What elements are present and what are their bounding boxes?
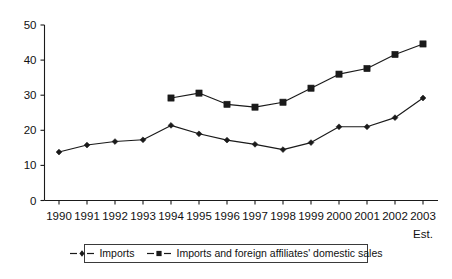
chart-axes xyxy=(41,25,439,205)
x-tick-label-1991: 1991 xyxy=(74,210,100,222)
y-tick-label-30: 30 xyxy=(24,89,37,101)
data-point-marker xyxy=(252,141,258,147)
data-point-marker xyxy=(196,90,202,96)
chart-series-group xyxy=(56,41,426,155)
legend-label-imports: Imports xyxy=(99,248,134,259)
data-point-marker xyxy=(392,51,398,57)
data-point-marker xyxy=(168,95,174,101)
data-point-marker xyxy=(308,140,314,146)
data-point-marker xyxy=(280,147,286,153)
x-tick-label-1997: 1997 xyxy=(242,210,268,222)
y-tick-label-40: 40 xyxy=(24,54,37,66)
data-point-marker xyxy=(364,124,370,130)
x-tick-label-2000: 2000 xyxy=(326,210,352,222)
line-chart-plot: 01020304050 1990199119921993199419951996… xyxy=(0,0,452,279)
data-point-marker xyxy=(308,85,314,91)
x-axis-tick-labels: 1990199119921993199419951996199719981999… xyxy=(46,210,436,222)
legend-item-imports[interactable]: Imports xyxy=(69,248,134,259)
x-tick-label-1993: 1993 xyxy=(130,210,156,222)
y-axis-ticks xyxy=(41,25,45,201)
data-point-marker xyxy=(224,137,230,143)
x-tick-label-1996: 1996 xyxy=(214,210,240,222)
data-point-marker xyxy=(280,99,286,105)
x-tick-label-1999: 1999 xyxy=(298,210,324,222)
legend-key-diamond-icon xyxy=(69,249,95,258)
chart-figure: 01020304050 1990199119921993199419951996… xyxy=(0,0,452,279)
data-point-marker xyxy=(252,104,258,110)
y-tick-label-10: 10 xyxy=(24,159,37,171)
data-point-marker xyxy=(84,142,90,148)
x-tick-label-1992: 1992 xyxy=(102,210,128,222)
estimate-annotation: Est. xyxy=(413,228,433,240)
legend-item-imports-and-affiliates[interactable]: Imports and foreign affiliates' domestic… xyxy=(146,248,382,259)
legend-label-imports-and-affiliates: Imports and foreign affiliates' domestic… xyxy=(176,248,382,259)
x-axis-ticks xyxy=(59,201,423,205)
x-tick-label-1994: 1994 xyxy=(158,210,184,222)
data-point-marker xyxy=(196,131,202,137)
y-tick-label-50: 50 xyxy=(24,19,37,31)
data-point-marker xyxy=(364,65,370,71)
series-line-1 xyxy=(171,44,423,107)
data-point-marker xyxy=(420,41,426,47)
legend-key-square-icon xyxy=(146,249,172,258)
series-imports xyxy=(56,95,426,155)
x-tick-label-1990: 1990 xyxy=(46,210,72,222)
x-tick-label-2002: 2002 xyxy=(382,210,408,222)
y-axis-tick-labels: 01020304050 xyxy=(24,19,37,207)
x-tick-label-2003: 2003 xyxy=(410,210,436,222)
series-imports-and-affiliates xyxy=(168,41,426,110)
x-tick-label-2001: 2001 xyxy=(354,210,380,222)
data-point-marker xyxy=(140,137,146,143)
y-tick-label-0: 0 xyxy=(30,195,36,207)
x-tick-label-1998: 1998 xyxy=(270,210,296,222)
data-point-marker xyxy=(336,71,342,77)
chart-legend: Imports Imports and foreign affiliates' … xyxy=(84,244,368,263)
x-tick-label-1995: 1995 xyxy=(186,210,212,222)
data-point-marker xyxy=(224,101,230,107)
data-point-marker xyxy=(168,122,174,128)
y-tick-label-20: 20 xyxy=(24,124,37,136)
data-point-marker xyxy=(56,149,62,155)
data-point-marker xyxy=(336,124,342,130)
data-point-marker xyxy=(112,139,118,145)
